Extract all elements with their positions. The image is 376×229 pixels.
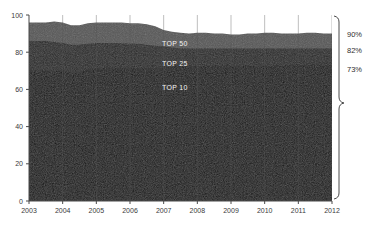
y-tick-label: 60	[15, 86, 23, 93]
x-tick-label: 2005	[89, 207, 105, 214]
y-tick-label: 40	[15, 123, 23, 130]
pct-label-top25: 82%	[347, 46, 362, 55]
x-tick-label: 2006	[122, 207, 138, 214]
series-label-top50: TOP 50	[162, 40, 188, 47]
y-tick-label: 0	[19, 198, 23, 205]
x-tick-label: 2003	[21, 207, 37, 214]
x-tick-label: 2004	[55, 207, 71, 214]
x-tick-label: 2012	[324, 207, 340, 214]
y-tick-label: 20	[15, 160, 23, 167]
y-tick-label: 100	[11, 12, 23, 19]
x-tick-label: 2009	[223, 207, 239, 214]
series-label-top10: TOP 10	[162, 84, 188, 91]
y-tick-label: 80	[15, 49, 23, 56]
x-tick-label: 2011	[291, 207, 306, 214]
x-tick-label: 2008	[190, 207, 206, 214]
stacked-area-chart: 020406080100 200320042005200620072008200…	[0, 0, 376, 229]
series-label-top25: TOP 25	[162, 60, 188, 67]
percentage-annotations: 90%82%73%	[347, 30, 362, 75]
pct-label-top10: 73%	[347, 65, 362, 74]
x-tick-label: 2010	[257, 207, 273, 214]
x-tick-label: 2007	[156, 207, 172, 214]
series-areas	[29, 22, 332, 201]
chart-canvas: 020406080100 200320042005200620072008200…	[0, 0, 376, 229]
pct-label-top50: 90%	[347, 30, 362, 39]
